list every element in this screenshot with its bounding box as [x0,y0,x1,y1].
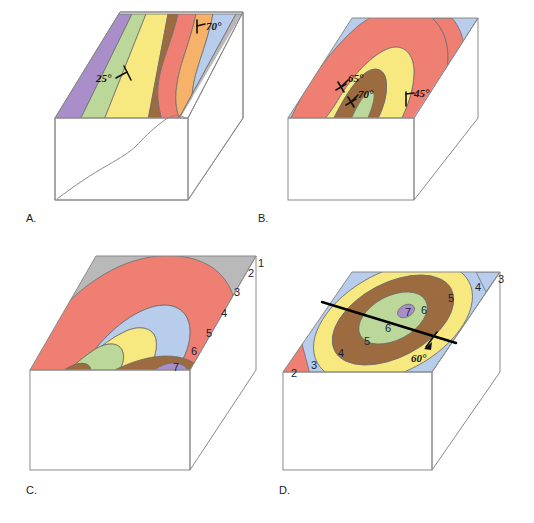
panel-c-label: C. [26,484,37,496]
panel-a: 70° 25° A. [26,8,250,224]
dip-value-25: 25° [95,72,112,84]
panel-c-front-face [30,370,190,470]
panel-c-unit-label-7: 7 [173,361,179,373]
dip-value-70-b: 70° [358,88,374,100]
panel-a-front-face [55,118,188,200]
panel-c-unit-label-1: 1 [258,257,264,269]
panel-c-unit-label-5: 5 [206,327,212,339]
panel-d-unit-label-4-right: 4 [475,281,481,293]
panel-d-unit-label-6-right: 6 [421,304,427,316]
panel-d-unit-label-3-left: 3 [311,359,317,371]
panel-a-front-contact-line [57,115,186,199]
panel-b-top-surface [283,8,488,124]
dip-value-45: 45° [413,87,430,99]
panel-b: 65° 70° 45° B. [258,8,488,224]
panel-d-unit-label-4-left: 4 [338,347,344,359]
panel-d-unit-label-2-left: 2 [291,367,297,379]
panel-d-unit-label-6-center: 6 [385,322,391,334]
panel-d-front-face [283,372,432,470]
dip-value-70-a: 70° [206,20,222,32]
panel-c-top-surface [24,250,265,378]
panel-b-label: B. [258,212,268,224]
panel-d: 60° 3 4 5 6 7 6 5 4 3 2 D. [278,237,506,496]
geologic-block-diagram-figure: 70° 25° A. [0,0,534,523]
panel-b-front-face [288,118,414,200]
dip-value-60: 60° [411,352,427,364]
panel-d-unit-label-7-center: 7 [405,306,411,318]
panel-c-unit-label-6: 6 [191,345,197,357]
dip-value-65: 65° [348,72,364,84]
panel-d-label: D. [279,484,290,496]
panel-c-unit-label-3: 3 [234,286,240,298]
panel-c: 1 2 3 4 5 6 7 C. [24,250,265,496]
panel-d-unit-label-5-left: 5 [364,335,370,347]
panel-c-unit-label-2: 2 [248,267,254,279]
panel-a-label: A. [26,212,36,224]
panel-d-unit-label-3-right: 3 [498,273,504,285]
panel-c-unit-label-4: 4 [221,307,227,319]
panel-d-top-surface [278,237,506,406]
panel-d-unit-label-5-right: 5 [448,292,454,304]
